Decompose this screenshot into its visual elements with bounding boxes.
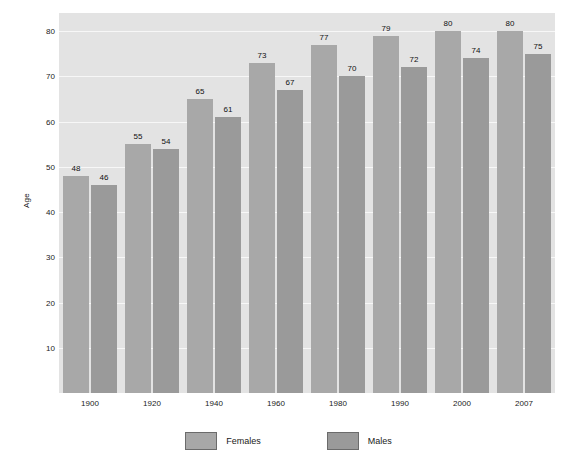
legend-swatch-females xyxy=(185,432,217,450)
y-tick-10: 10 xyxy=(29,344,55,353)
bar-value-males-1900: 46 xyxy=(100,173,109,182)
bar-males-1900[interactable] xyxy=(91,185,117,393)
bar-males-1960[interactable] xyxy=(277,90,303,393)
x-tick-2007: 2007 xyxy=(515,399,533,408)
bar-value-males-2007: 75 xyxy=(534,42,543,51)
gridline-80 xyxy=(59,31,555,32)
x-tick-1900: 1900 xyxy=(81,399,99,408)
y-tick-40: 40 xyxy=(29,208,55,217)
legend-label-females: Females xyxy=(226,436,261,446)
x-tick-1980: 1980 xyxy=(329,399,347,408)
legend-swatch-males xyxy=(327,432,359,450)
x-tick-1920: 1920 xyxy=(143,399,161,408)
bar-males-2000[interactable] xyxy=(463,58,489,393)
bar-value-males-1960: 67 xyxy=(286,78,295,87)
bar-females-1920[interactable] xyxy=(125,144,151,393)
bar-value-males-2000: 74 xyxy=(472,46,481,55)
bar-value-females-1940: 65 xyxy=(196,87,205,96)
bar-chart: Age 1020304050607080 4846555465617367777… xyxy=(0,0,577,464)
bar-males-1920[interactable] xyxy=(153,149,179,393)
bar-females-1900[interactable] xyxy=(63,176,89,393)
x-tick-1940: 1940 xyxy=(205,399,223,408)
x-tick-1960: 1960 xyxy=(267,399,285,408)
bar-value-males-1940: 61 xyxy=(224,105,233,114)
x-tick-1990: 1990 xyxy=(391,399,409,408)
legend-item-females[interactable]: Females xyxy=(185,432,261,450)
bar-value-males-1990: 72 xyxy=(410,55,419,64)
legend-item-males[interactable]: Males xyxy=(327,432,392,450)
bar-value-males-1920: 54 xyxy=(162,137,171,146)
bar-females-1940[interactable] xyxy=(187,99,213,393)
bar-value-females-1920: 55 xyxy=(134,132,143,141)
y-tick-50: 50 xyxy=(29,163,55,172)
y-tick-60: 60 xyxy=(29,118,55,127)
bar-females-1960[interactable] xyxy=(249,63,275,393)
bar-value-females-2007: 80 xyxy=(506,19,515,28)
bar-males-1940[interactable] xyxy=(215,117,241,393)
y-tick-20: 20 xyxy=(29,299,55,308)
bar-females-2000[interactable] xyxy=(435,31,461,393)
bar-value-females-1980: 77 xyxy=(320,33,329,42)
plot-area xyxy=(59,13,555,393)
bar-females-1980[interactable] xyxy=(311,45,337,393)
bar-males-1980[interactable] xyxy=(339,76,365,393)
bar-males-2007[interactable] xyxy=(525,54,551,393)
bar-value-males-1980: 70 xyxy=(348,64,357,73)
bar-value-females-1960: 73 xyxy=(258,51,267,60)
bar-value-females-1900: 48 xyxy=(72,164,81,173)
y-tick-30: 30 xyxy=(29,253,55,262)
bar-males-1990[interactable] xyxy=(401,67,427,393)
legend-label-males: Males xyxy=(368,436,392,446)
x-tick-2000: 2000 xyxy=(453,399,471,408)
bar-value-females-1990: 79 xyxy=(382,24,391,33)
y-tick-80: 80 xyxy=(29,27,55,36)
bar-females-2007[interactable] xyxy=(497,31,523,393)
bar-value-females-2000: 80 xyxy=(444,19,453,28)
legend: FemalesMales xyxy=(0,432,577,450)
bar-females-1990[interactable] xyxy=(373,36,399,393)
y-tick-70: 70 xyxy=(29,72,55,81)
